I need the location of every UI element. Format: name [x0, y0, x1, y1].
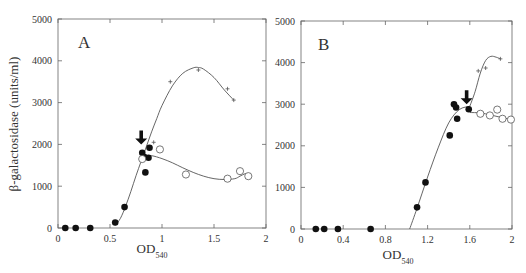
y-tick-label: 0: [290, 224, 295, 235]
data-point-filled: [72, 225, 79, 232]
data-point-plus: [484, 66, 488, 70]
data-point-open: [156, 146, 163, 153]
arrow-down-icon: [135, 130, 147, 144]
figure: 00.511.52010002000300040005000A 00.40.81…: [0, 0, 526, 273]
data-point-filled: [145, 154, 152, 161]
x-tick-label: 0.4: [337, 234, 350, 245]
data-point-filled: [62, 225, 69, 232]
data-point-open: [499, 115, 506, 122]
y-tick-label: 4000: [32, 55, 52, 66]
x-tick-label: 0.5: [104, 233, 117, 244]
data-point-filled: [414, 204, 421, 211]
x-axis-subscript-b: 540: [401, 257, 413, 266]
data-point-open: [486, 112, 493, 119]
x-tick-label: 2: [264, 233, 269, 244]
y-tick-label: 1000: [275, 182, 295, 193]
x-tick-label: 0.8: [379, 234, 392, 245]
y-tick-label: 5000: [275, 16, 295, 27]
x-tick-label: 1.6: [464, 234, 477, 245]
induction-curve: [470, 56, 501, 106]
data-point-filled: [465, 106, 472, 113]
x-axis-subscript-a: 540: [155, 251, 167, 260]
y-tick-label: 3000: [275, 99, 295, 110]
data-point-open: [494, 106, 501, 113]
x-tick-label: 1: [160, 233, 165, 244]
rise-curve: [410, 106, 470, 229]
data-point-filled: [146, 144, 153, 151]
data-point-filled: [367, 226, 374, 233]
x-tick-label: 1.5: [208, 233, 221, 244]
rise-and-peak-curve: [115, 67, 234, 225]
panel-a: 00.511.52010002000300040005000A: [32, 14, 269, 245]
data-point-filled: [335, 226, 342, 233]
data-point-filled: [454, 115, 461, 122]
data-point-open: [224, 175, 231, 182]
data-point-filled: [453, 104, 460, 111]
plot-frame: [301, 21, 512, 229]
data-point-plus: [498, 57, 502, 61]
x-tick-label: 1.2: [421, 234, 434, 245]
data-point-filled: [422, 179, 429, 186]
y-tick-label: 1000: [32, 181, 52, 192]
x-tick-label: 0: [56, 233, 61, 244]
panel-letter: B: [318, 35, 329, 54]
y-tick-label: 0: [47, 223, 52, 234]
x-tick-label: 0: [299, 234, 304, 245]
data-point-filled: [321, 226, 328, 233]
y-tick-label: 3000: [32, 97, 52, 108]
data-point-open: [477, 110, 484, 117]
x-axis-title-b: OD540: [383, 247, 414, 266]
data-point-plus: [168, 80, 172, 84]
data-point-filled: [112, 219, 119, 226]
data-point-plus: [226, 87, 230, 91]
data-point-filled: [142, 169, 149, 176]
data-point-filled: [312, 226, 319, 233]
data-point-filled: [121, 204, 128, 211]
data-point-plus: [476, 69, 480, 73]
data-point-open: [139, 155, 146, 162]
x-tick-label: 2: [510, 234, 515, 245]
data-point-open: [236, 168, 243, 175]
data-point-filled: [87, 225, 94, 232]
data-point-open: [245, 173, 252, 180]
y-tick-label: 4000: [275, 57, 295, 68]
data-point-filled: [446, 132, 453, 139]
panel-b: 00.40.81.21.62010002000300040005000B: [275, 16, 515, 246]
panel-letter: A: [78, 33, 91, 52]
data-point-open: [507, 116, 514, 123]
y-tick-label: 2000: [275, 140, 295, 151]
data-point-open: [182, 171, 189, 178]
y-tick-label: 5000: [32, 14, 52, 25]
data-point-plus: [152, 140, 156, 144]
arrow-down-icon: [461, 90, 473, 104]
y-axis-title: β-galactosidase (units/ml): [6, 57, 21, 192]
y-tick-label: 2000: [32, 139, 52, 150]
chart-canvas: 00.511.52010002000300040005000A 00.40.81…: [0, 0, 526, 273]
plateau-curve: [144, 156, 248, 180]
data-point-plus: [196, 68, 200, 72]
